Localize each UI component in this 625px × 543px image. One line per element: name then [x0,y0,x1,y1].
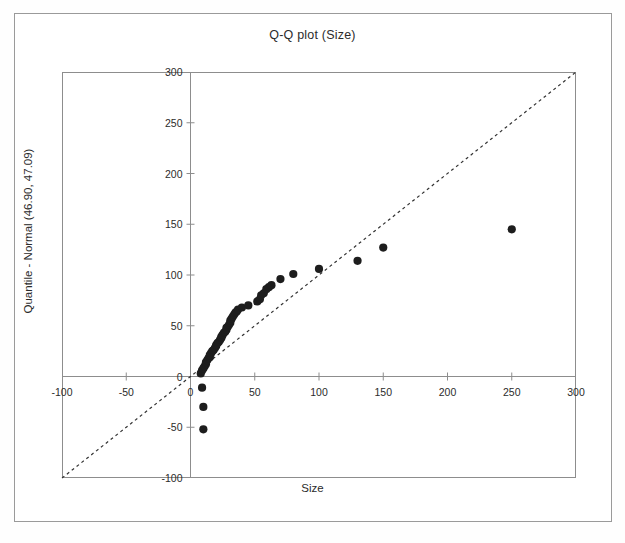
scatter-points [197,225,516,433]
x-tick-label: -100 [40,386,84,398]
x-tick-label: -50 [104,386,148,398]
x-tick-label: 250 [490,386,534,398]
y-tick-label: 300 [143,66,183,78]
y-tick-label: -50 [143,421,183,433]
reference-line [62,72,576,478]
data-point [244,301,252,309]
x-tick-label: 50 [233,386,277,398]
x-tick-label: 100 [297,386,341,398]
data-point [199,425,207,433]
x-tick-label: 300 [554,386,598,398]
plot-canvas [62,72,576,478]
data-point [276,275,284,283]
chart-figure: Q-Q plot (Size) -100-5005010015020025030… [0,0,625,543]
y-axis-title: Quantile - Normal (46.90, 47.09) [22,51,34,411]
zero-axis-lines [62,72,576,478]
data-point [353,257,361,265]
data-point [315,265,323,273]
chart-title: Q-Q plot (Size) [0,28,625,42]
x-tick-label: 200 [426,386,470,398]
x-axis-title: Size [0,482,625,494]
data-point [508,225,516,233]
data-point [289,270,297,278]
reference-line-path [62,72,576,478]
y-tick-label: 100 [143,269,183,281]
y-tick-label: 150 [143,218,183,230]
plot-area [62,72,576,478]
y-tick-label: 50 [143,320,183,332]
x-tick-label: 150 [361,386,405,398]
data-point [267,281,275,289]
y-tick-label: 250 [143,117,183,129]
x-tick-label: 0 [169,386,213,398]
data-point [199,403,207,411]
y-tick-label: 0 [143,371,183,383]
y-tick-label: 200 [143,168,183,180]
data-point [379,243,387,251]
